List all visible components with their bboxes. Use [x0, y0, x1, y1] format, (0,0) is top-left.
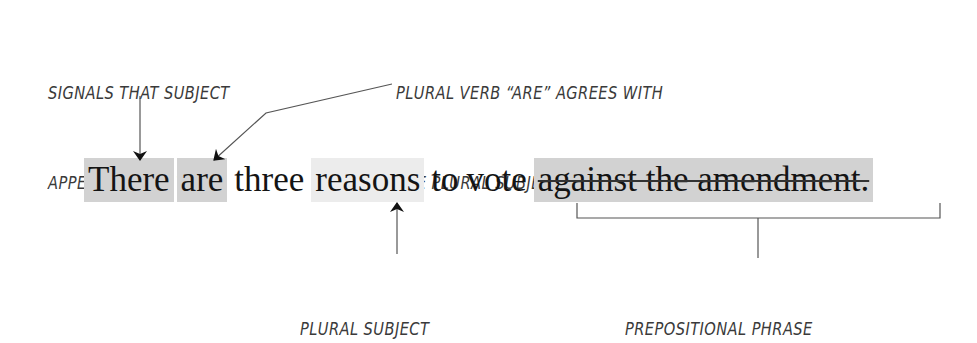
- bracket-prepositional-phrase: [577, 203, 940, 218]
- arrow-to-are: [214, 84, 392, 160]
- annotation-line: PLURAL SUBJECT: [300, 314, 429, 343]
- annotation-line: PREPOSITIONAL PHRASE: [625, 314, 813, 343]
